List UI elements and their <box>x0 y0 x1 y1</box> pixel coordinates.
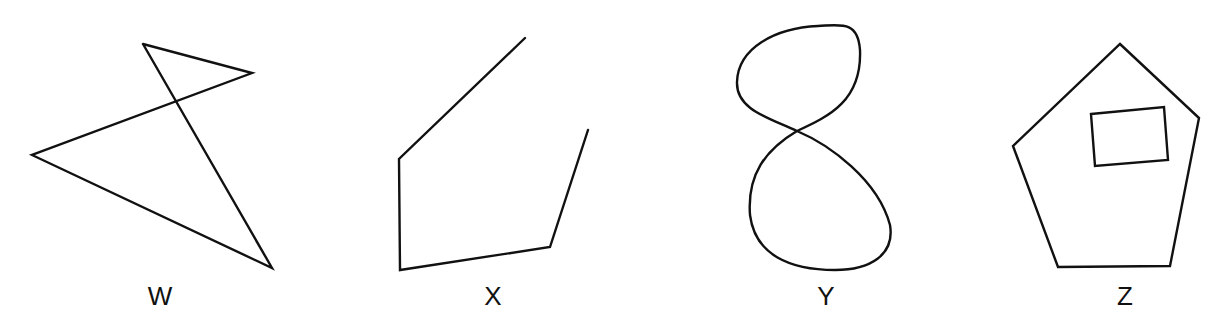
label-x: X <box>484 283 501 309</box>
label-y: Y <box>817 283 834 309</box>
figure-x-polyline <box>399 38 588 270</box>
figure-w-polyline <box>32 44 272 268</box>
figure-z-pentagon <box>1013 44 1199 267</box>
figure-z-inner-rectangle <box>1091 107 1168 166</box>
label-z: Z <box>1117 283 1133 309</box>
label-w: W <box>148 283 173 309</box>
figure-y-curve <box>737 25 891 270</box>
figures-canvas <box>0 0 1231 332</box>
